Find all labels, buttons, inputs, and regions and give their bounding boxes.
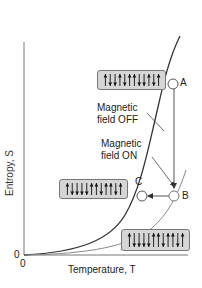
point-b-label: B: [182, 190, 189, 202]
point-c: [137, 191, 147, 201]
spin-box-a: [97, 70, 166, 90]
x-origin-label: 0: [20, 258, 26, 270]
point-c-label: C: [135, 176, 142, 188]
spin-arrows-c: [60, 180, 127, 198]
spin-arrows-b: [122, 230, 189, 250]
entropy-temperature-diagram: A B C Magnetic field OFF Magnetic field …: [0, 0, 202, 288]
x-axis-label: Temperature, T: [68, 264, 136, 276]
spin-arrows-a: [98, 71, 165, 89]
spin-box-c: [59, 179, 128, 199]
field-off-label-2: field OFF: [97, 114, 138, 126]
point-a-label: A: [180, 77, 187, 89]
y-axis-label: Entropy, S: [4, 150, 15, 196]
point-b: [169, 191, 179, 201]
y-origin-label: 0: [14, 249, 20, 261]
point-a: [168, 79, 178, 89]
leader-field-on: [152, 157, 174, 186]
field-on-label-2: field ON: [101, 150, 137, 162]
field-off-label-1: Magnetic: [97, 102, 138, 114]
spin-box-b: [121, 229, 190, 251]
field-on-label-1: Magnetic: [101, 138, 142, 150]
